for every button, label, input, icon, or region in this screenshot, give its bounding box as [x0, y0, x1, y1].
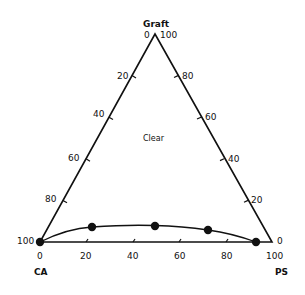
right-tick-label: 80: [182, 72, 193, 81]
bottom-tick-label: 60: [174, 252, 185, 261]
left-edge-ticks: [63, 76, 136, 203]
right-corner-tick: 0: [277, 237, 283, 246]
bottom-tick-label: 100: [266, 252, 283, 261]
apex-left-tick: 0: [144, 31, 150, 40]
region-label-clear: Clear: [143, 135, 164, 143]
bottom-tick-label: 0: [37, 252, 43, 261]
left-vertex-label: CA: [34, 268, 48, 277]
right-vertex-label: PS: [275, 268, 288, 277]
left-corner-tick: 100: [17, 237, 34, 246]
left-tick-label: 60: [68, 154, 79, 163]
phase-boundary-curve: [40, 225, 256, 242]
left-tick-label: 40: [93, 110, 104, 119]
apex-right-tick: 100: [160, 31, 177, 40]
bottom-tick-label: 20: [80, 252, 91, 261]
bottom-tick-label: 40: [127, 252, 138, 261]
data-point: [88, 223, 96, 231]
data-point: [252, 238, 260, 246]
right-tick-label: 40: [228, 155, 239, 164]
bottom-tick-label: 80: [221, 252, 232, 261]
data-point: [36, 238, 44, 246]
ternary-diagram: [0, 0, 305, 295]
left-tick-label: 80: [45, 195, 56, 204]
data-point: [204, 226, 212, 234]
left-tick-label: 20: [117, 72, 128, 81]
data-point: [151, 222, 159, 230]
right-edge-ticks: [174, 76, 248, 203]
top-vertex-label: Graft: [143, 20, 169, 29]
right-tick-label: 20: [251, 196, 262, 205]
right-tick-label: 60: [205, 113, 216, 122]
